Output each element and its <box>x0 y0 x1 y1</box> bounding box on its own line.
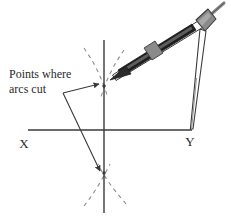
callout-arrow-group <box>63 84 100 171</box>
callout-arrow-upper <box>63 84 99 93</box>
callout-text-line1: Points where <box>9 67 71 81</box>
lower-arc-right <box>98 164 126 204</box>
x-axis-label: X <box>19 136 29 151</box>
y-axis-label: Y <box>185 134 195 149</box>
compass-construction-figure: X Y Points where arcs cut <box>0 0 231 219</box>
diagram-canvas: X Y Points where arcs cut <box>0 0 231 219</box>
lower-arc-group <box>84 164 126 206</box>
compass-needle-leg <box>190 29 206 129</box>
lower-intersection-point <box>102 171 105 174</box>
callout-arrow-lower <box>63 93 100 171</box>
callout-text-line2: arcs cut <box>9 82 47 96</box>
lower-arc-left <box>84 164 110 206</box>
upper-intersection-point <box>102 84 105 87</box>
